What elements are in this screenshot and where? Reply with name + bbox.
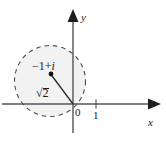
center-point-label-imaginary-unit: i — [52, 59, 55, 73]
complex-plane-figure: y x 0 1 −1+i √2 — [0, 0, 166, 143]
center-point-label-sign: −1 — [32, 59, 45, 73]
center-point-label: −1+i — [32, 60, 55, 72]
radical-overbar — [43, 88, 49, 89]
origin-label: 0 — [75, 107, 81, 118]
x-axis-label: x — [148, 117, 153, 128]
x-axis-arrowhead — [148, 99, 161, 110]
radical-sign: √ — [36, 86, 43, 100]
radius-label: √2 — [36, 87, 49, 99]
center-point-label-plus: + — [45, 59, 52, 73]
y-axis-arrowhead — [68, 9, 79, 22]
y-axis-label: y — [81, 12, 86, 23]
radical-sign-group: √2 — [36, 87, 49, 99]
x-tick-label-1: 1 — [93, 110, 99, 121]
